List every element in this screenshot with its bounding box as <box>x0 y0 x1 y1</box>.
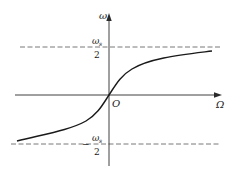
origin-label: O <box>112 98 120 109</box>
lower-label-sign: − <box>82 139 90 149</box>
lower-asymptote-label: − ω s 2 <box>82 133 102 157</box>
lower-label-subscript: s <box>99 137 102 144</box>
frequency-warping-diagram: ω Ω O ω s 2 − ω s 2 <box>0 0 237 173</box>
horizontal-axis-arrow-icon <box>214 92 222 97</box>
warping-curve <box>17 51 212 141</box>
upper-asymptote-label: ω s 2 <box>92 36 102 60</box>
upper-label-denominator: 2 <box>94 50 100 60</box>
lower-label-denominator: 2 <box>94 147 100 157</box>
upper-label-subscript: s <box>99 40 102 47</box>
horizontal-axis-label: Ω <box>215 99 224 110</box>
vertical-axis-label: ω <box>99 10 107 21</box>
